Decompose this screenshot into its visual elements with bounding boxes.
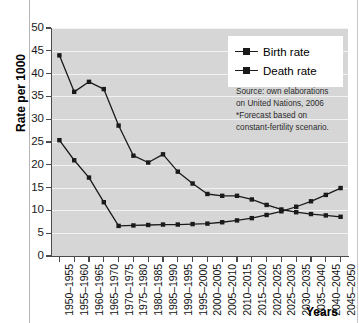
x-axis-tick — [340, 257, 341, 262]
series-point-marker — [338, 186, 342, 190]
series-point-marker — [176, 222, 180, 226]
x-axis-tick — [148, 257, 149, 262]
series-point-marker — [250, 197, 254, 201]
series-point-marker — [250, 216, 254, 220]
series-point-marker — [131, 223, 135, 227]
y-axis-tick-label: 10 — [0, 204, 44, 216]
y-axis-tick-label: 15 — [0, 182, 44, 194]
x-axis-tick-label: 1975–1980 — [137, 264, 149, 316]
x-axis-tick-label: 2000–2005 — [211, 264, 223, 316]
series-point-marker — [235, 218, 239, 222]
x-axis-title: Years — [306, 305, 338, 319]
series-point-marker — [220, 220, 224, 224]
x-axis-tick-label: 2045–2050 — [345, 264, 357, 316]
y-axis-tick-label: 45 — [0, 45, 44, 57]
x-axis-line — [51, 256, 349, 257]
x-axis-tick-label: 1965–1970 — [108, 264, 120, 316]
series-point-marker — [324, 193, 328, 197]
x-axis-tick-label: 1980–1985 — [152, 264, 164, 316]
series-point-marker — [57, 53, 61, 57]
series-point-marker — [235, 194, 239, 198]
x-axis-tick — [266, 257, 267, 262]
y-axis-tick-label: 20 — [0, 159, 44, 171]
series-point-marker — [131, 153, 135, 157]
series-point-marker — [309, 199, 313, 203]
source-note-line: Source: own elaborations — [236, 86, 348, 98]
series-point-marker — [87, 175, 91, 179]
series-point-marker — [324, 213, 328, 217]
series-point-marker — [309, 212, 313, 216]
x-axis-tick — [296, 257, 297, 262]
source-note-line: constant-fertility scenario. — [236, 122, 348, 134]
x-axis-tick — [103, 257, 104, 262]
series-point-marker — [264, 203, 268, 207]
x-axis-tick — [281, 257, 282, 262]
y-axis-tick-label: 35 — [0, 90, 44, 102]
x-axis-tick — [310, 257, 311, 262]
x-axis-tick — [325, 257, 326, 262]
series-point-marker — [190, 222, 194, 226]
series-point-marker — [294, 210, 298, 214]
x-axis-tick — [133, 257, 134, 262]
source-note-line: on United Nations, 2006 — [236, 98, 348, 110]
series-point-marker — [72, 158, 76, 162]
series-point-marker — [87, 80, 91, 84]
series-point-marker — [264, 213, 268, 217]
series-point-marker — [102, 87, 106, 91]
chart-legend: Birth rate Death rate — [228, 36, 343, 87]
x-axis-tick-label: 1970–1975 — [123, 264, 135, 316]
x-axis-tick-label: 1950–1955 — [63, 264, 75, 316]
series-point-marker — [190, 181, 194, 185]
series-point-marker — [205, 192, 209, 196]
x-axis-tick-label: 2010–2015 — [241, 264, 253, 316]
y-axis-tick-label: 30 — [0, 113, 44, 125]
page-rule-right — [357, 0, 358, 323]
x-axis-tick — [88, 257, 89, 262]
y-axis-tick-label: 40 — [0, 68, 44, 80]
series-point-marker — [146, 160, 150, 164]
x-axis-tick — [118, 257, 119, 262]
x-axis-tick-label: 1995–2000 — [197, 264, 209, 316]
y-axis-tick-label: 25 — [0, 136, 44, 148]
x-axis-tick — [222, 257, 223, 262]
x-axis-tick-label: 1990–1995 — [182, 264, 194, 316]
legend-label-birth-rate: Birth rate — [263, 46, 310, 58]
legend-marker-icon — [235, 46, 258, 58]
chart-figure: Rate per 1000 05101520253035404550 1950–… — [0, 0, 359, 323]
series-point-marker — [294, 205, 298, 209]
x-axis-tick-label: 1960–1965 — [93, 264, 105, 316]
legend-item-birth-rate: Birth rate — [235, 42, 337, 61]
x-axis-tick — [207, 257, 208, 262]
series-point-marker — [57, 138, 61, 142]
source-note: Source: own elaborations on United Natio… — [236, 86, 348, 134]
x-axis-tick — [59, 257, 60, 262]
legend-marker-icon — [235, 65, 258, 77]
y-axis-tick-label: 5 — [0, 227, 44, 239]
source-note-line: *Forecast based on — [236, 110, 348, 122]
y-axis-tick-label: 50 — [0, 22, 44, 34]
x-axis-tick-label: 1955–1960 — [78, 264, 90, 316]
x-axis-tick-label: 2020–2025 — [271, 264, 283, 316]
series-point-marker — [205, 221, 209, 225]
x-axis-tick — [177, 257, 178, 262]
series-point-marker — [116, 224, 120, 228]
series-point-marker — [161, 222, 165, 226]
x-axis-tick — [251, 257, 252, 262]
series-point-marker — [176, 169, 180, 173]
x-axis-tick — [162, 257, 163, 262]
y-axis-line — [51, 28, 52, 257]
x-axis-tick — [236, 257, 237, 262]
legend-label-death-rate: Death rate — [263, 65, 317, 77]
x-axis-tick-label: 2005–2010 — [226, 264, 238, 316]
series-point-marker — [102, 200, 106, 204]
x-axis-tick-label: 2015–2020 — [256, 264, 268, 316]
series-point-marker — [279, 209, 283, 213]
legend-item-death-rate: Death rate — [235, 61, 337, 80]
y-axis-tick-label: 0 — [0, 250, 44, 262]
x-axis-tick — [74, 257, 75, 262]
series-point-marker — [72, 90, 76, 94]
series-point-marker — [338, 215, 342, 219]
x-axis-tick — [192, 257, 193, 262]
series-point-marker — [161, 152, 165, 156]
series-point-marker — [116, 123, 120, 127]
